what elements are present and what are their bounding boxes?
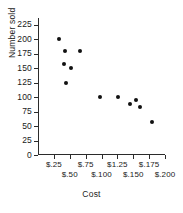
x-axis-tick xyxy=(133,155,134,159)
x-axis-tick xyxy=(86,155,87,159)
data-point xyxy=(134,98,138,102)
y-axis-tick xyxy=(34,112,38,113)
y-axis-tick xyxy=(34,126,38,127)
data-point xyxy=(78,49,82,53)
y-axis-tick xyxy=(34,25,38,26)
y-axis-tick xyxy=(34,155,38,156)
y-axis-tick xyxy=(34,83,38,84)
x-axis-tick-label: $.75 xyxy=(70,160,102,169)
y-axis-tick-label: 175 xyxy=(17,49,32,58)
x-axis-tick xyxy=(70,155,71,159)
y-axis-tick-label: 150 xyxy=(17,64,32,73)
data-point xyxy=(128,102,132,106)
y-axis-tick-label: 75 xyxy=(22,107,32,116)
y-axis-tick-label: 0 xyxy=(27,151,32,160)
y-axis-tick xyxy=(34,68,38,69)
y-axis-tick-label: 225 xyxy=(17,20,32,29)
data-point xyxy=(57,37,61,41)
x-axis-tick-label: $.50 xyxy=(54,170,86,179)
y-axis-tick-label: 50 xyxy=(22,122,32,131)
x-axis-tick-label: $.25 xyxy=(38,160,70,169)
y-axis-tick xyxy=(34,141,38,142)
x-axis-tick xyxy=(165,155,166,159)
x-axis-tick xyxy=(149,155,150,159)
data-point xyxy=(116,95,120,99)
x-axis-title: Cost xyxy=(0,189,183,199)
x-axis-tick-label: $.175 xyxy=(133,160,165,169)
plot-area xyxy=(38,18,165,155)
y-axis-tick xyxy=(34,39,38,40)
x-axis-tick xyxy=(117,155,118,159)
data-point xyxy=(69,66,73,70)
x-axis-tick-label: $.100 xyxy=(86,170,118,179)
y-axis-tick xyxy=(34,54,38,55)
y-axis-tick-label: 200 xyxy=(17,35,32,44)
x-axis-tick-label: $1.25 xyxy=(101,160,133,169)
y-axis-tick-label: 125 xyxy=(17,78,32,87)
y-axis-title: Number sold xyxy=(7,0,17,58)
data-point xyxy=(138,105,142,109)
x-axis-tick xyxy=(102,155,103,159)
data-point xyxy=(63,49,67,53)
y-axis-tick-label: 25 xyxy=(22,136,32,145)
data-point xyxy=(64,81,68,85)
x-axis-tick-label: $.150 xyxy=(117,170,149,179)
y-axis-tick-label: 100 xyxy=(17,93,32,102)
x-axis-tick xyxy=(54,155,55,159)
data-point xyxy=(150,120,154,124)
x-axis-tick-label: $.200 xyxy=(149,170,181,179)
scatter-plot-figure: Number sold 2252001751501251007550250 $.… xyxy=(0,0,183,213)
data-point xyxy=(98,95,102,99)
data-point xyxy=(62,62,66,66)
y-axis-tick xyxy=(34,97,38,98)
y-axis-line xyxy=(38,18,39,155)
